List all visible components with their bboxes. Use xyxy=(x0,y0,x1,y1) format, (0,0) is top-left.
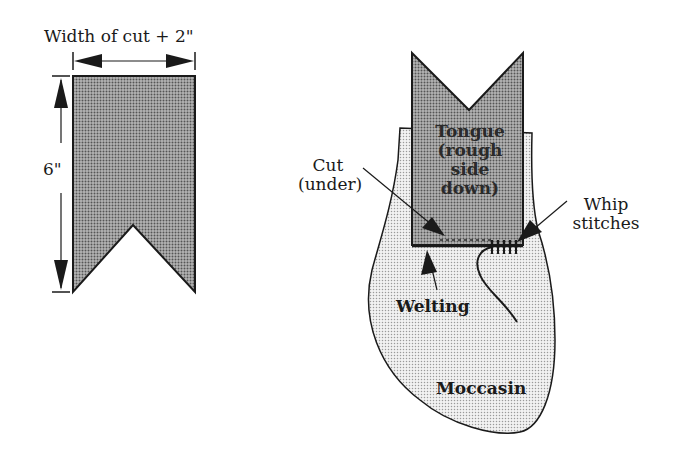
whip-label-line: Whip xyxy=(565,195,647,214)
cut-label-line: (under) xyxy=(298,175,358,194)
cut-label: Cut (under) xyxy=(298,156,358,194)
welting-label: Welting xyxy=(396,297,470,316)
tongue-label: Tongue (rough side down) xyxy=(420,122,520,198)
moccasin-label: Moccasin xyxy=(436,379,526,398)
tongue-label-line: (rough xyxy=(420,141,520,160)
height-label: 6" xyxy=(43,160,62,179)
width-label: Width of cut + 2" xyxy=(44,27,194,46)
whip-stitches-label: Whip stitches xyxy=(565,195,647,233)
whip-label-line: stitches xyxy=(565,214,647,233)
tongue-label-line: down) xyxy=(420,179,520,198)
tongue-label-line: side xyxy=(420,160,520,179)
tongue-pattern-piece xyxy=(73,76,195,292)
height-dimension-arrow xyxy=(52,76,70,292)
cut-label-line: Cut xyxy=(298,156,358,175)
width-dimension-arrow xyxy=(73,52,195,70)
tongue-label-line: Tongue xyxy=(420,122,520,141)
